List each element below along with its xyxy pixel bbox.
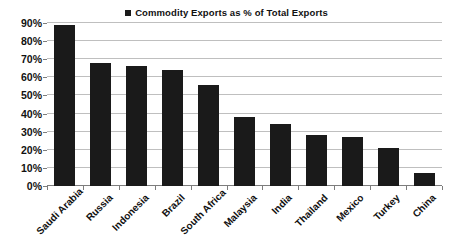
legend-color-swatch-icon: [125, 10, 131, 16]
x-axis-tick-mark: [47, 186, 48, 190]
plot-area: [47, 23, 442, 186]
x-axis-category-label-text: Thailand: [293, 192, 330, 229]
x-axis-tick-mark: [262, 186, 263, 190]
bar: [342, 137, 363, 186]
y-axis-tick-label: 80%: [0, 35, 42, 47]
y-axis-tick-label: 90%: [0, 17, 42, 29]
y-axis-tick-mark: [43, 77, 47, 78]
bar: [270, 124, 291, 186]
y-axis-tick-labels: 0%10%20%30%40%50%60%70%80%90%: [0, 23, 42, 186]
bar: [414, 173, 435, 186]
y-axis-tick-mark: [43, 132, 47, 133]
x-axis-tick-mark: [298, 186, 299, 190]
x-axis-tick-mark: [155, 186, 156, 190]
gridline: [47, 40, 442, 41]
gridline: [47, 58, 442, 59]
y-axis-tick-label: 30%: [0, 126, 42, 138]
x-axis-tick-mark: [442, 186, 443, 190]
bar: [90, 63, 111, 186]
y-axis-tick-mark: [43, 114, 47, 115]
y-axis-tick-label: 70%: [0, 53, 42, 65]
y-axis-tick-label: 20%: [0, 144, 42, 156]
y-axis-tick-label: 60%: [0, 71, 42, 83]
x-axis-category-label-text: Turkey: [371, 192, 401, 222]
bar: [306, 135, 327, 186]
bar: [54, 25, 75, 186]
x-axis-category-label-text: Russia: [84, 192, 115, 223]
x-axis-tick-mark: [227, 186, 228, 190]
y-axis-tick-label: 0%: [0, 180, 42, 192]
x-axis-tick-mark: [334, 186, 335, 190]
x-axis-tick-mark: [119, 186, 120, 190]
x-axis-tick-mark: [191, 186, 192, 190]
bar: [234, 117, 255, 186]
x-axis-tick-mark: [83, 186, 84, 190]
y-axis-tick-mark: [43, 41, 47, 42]
bar-chart: Commodity Exports as % of Total Exports …: [0, 0, 453, 250]
bar: [198, 85, 219, 186]
bar: [162, 70, 183, 186]
gridline: [47, 22, 442, 23]
y-axis-tick-mark: [43, 59, 47, 60]
x-axis-category-label-text: Brazil: [159, 192, 186, 219]
bar: [378, 148, 399, 186]
x-axis-tick-mark: [406, 186, 407, 190]
y-axis-tick-mark: [43, 150, 47, 151]
x-axis-category-label-text: Mexico: [334, 192, 366, 224]
chart-legend: Commodity Exports as % of Total Exports: [0, 2, 453, 20]
y-axis-tick-label: 40%: [0, 108, 42, 120]
x-axis-tick-mark: [370, 186, 371, 190]
y-axis-tick-label: 50%: [0, 89, 42, 101]
x-axis-category-label-text: China: [410, 192, 437, 219]
legend-label: Commodity Exports as % of Total Exports: [135, 7, 328, 18]
y-axis-tick-mark: [43, 168, 47, 169]
y-axis-tick-mark: [43, 23, 47, 24]
y-axis-tick-mark: [43, 95, 47, 96]
legend-entry: Commodity Exports as % of Total Exports: [125, 2, 328, 20]
bar: [126, 66, 147, 186]
x-axis-category-label-text: India: [270, 192, 294, 216]
y-axis-tick-label: 10%: [0, 162, 42, 174]
